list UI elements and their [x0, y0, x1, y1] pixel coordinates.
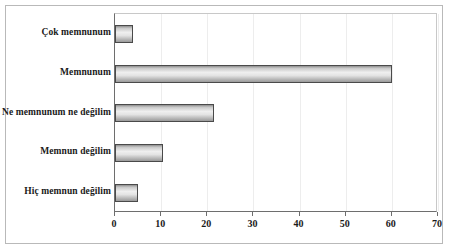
tick-label: 10 — [140, 218, 180, 229]
category-label: Çok memnunum — [0, 27, 111, 39]
bar[interactable] — [115, 104, 214, 122]
bar-row — [115, 54, 436, 94]
bar-row — [115, 173, 436, 213]
bar[interactable] — [115, 65, 392, 83]
tick-label: 30 — [232, 218, 272, 229]
tick-mark — [252, 212, 253, 216]
plot-area — [114, 13, 437, 212]
tick-mark — [391, 212, 392, 216]
bar[interactable] — [115, 184, 138, 202]
bar-rows — [115, 14, 436, 211]
tick-label: 70 — [417, 218, 449, 229]
tick-label: 20 — [186, 218, 226, 229]
bar-chart-figure: Çok memnunumMemnunumNe memnunum ne değil… — [0, 0, 449, 251]
tick-mark — [160, 212, 161, 216]
bar-row — [115, 14, 436, 54]
category-label: Ne memnunum ne değilim — [0, 107, 111, 119]
category-label: Memnunum — [0, 67, 111, 79]
tick-label: 0 — [94, 218, 134, 229]
bar-row — [115, 133, 436, 173]
tick-label: 40 — [279, 218, 319, 229]
bar[interactable] — [115, 25, 133, 43]
bar[interactable] — [115, 144, 163, 162]
tick-mark — [345, 212, 346, 216]
tick-mark — [114, 212, 115, 216]
tick-label: 50 — [325, 218, 365, 229]
category-label: Memnun değilim — [0, 146, 111, 158]
gridline — [438, 14, 439, 211]
tick-mark — [206, 212, 207, 216]
tick-mark — [437, 212, 438, 216]
tick-label: 60 — [371, 218, 411, 229]
bar-row — [115, 94, 436, 134]
tick-mark — [299, 212, 300, 216]
category-label: Hiç memnun değilim — [0, 186, 111, 198]
